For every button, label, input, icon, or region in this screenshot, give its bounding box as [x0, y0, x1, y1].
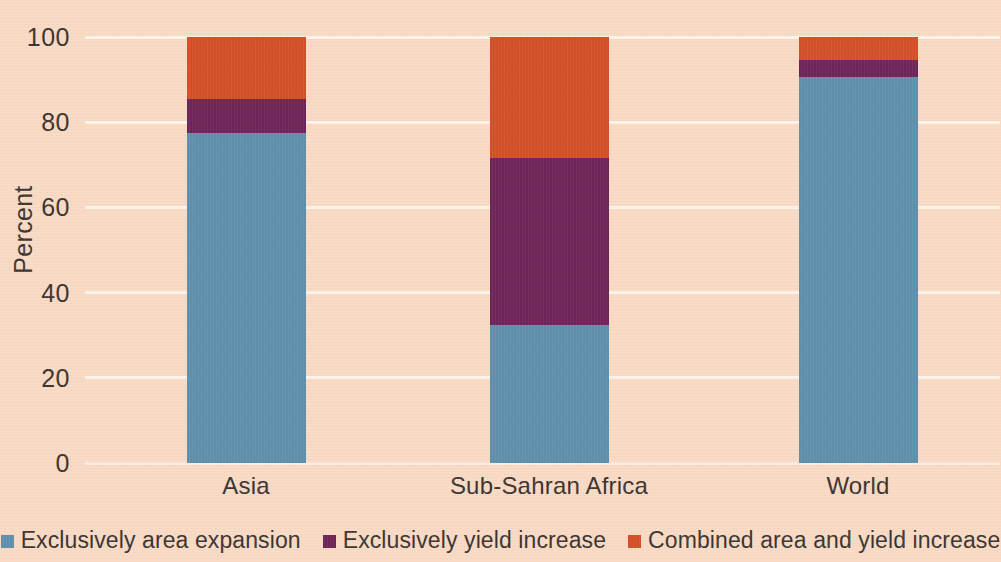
y-axis: 020406080100	[0, 37, 70, 463]
stacked-bar-chart: Percent 020406080100 AsiaSub-Sahran Afri…	[0, 0, 1001, 562]
y-tick-label-0: 0	[8, 449, 70, 478]
bar-stack	[490, 37, 609, 463]
bar-segment[interactable]	[490, 325, 609, 463]
legend-label: Exclusively yield increase	[343, 527, 606, 554]
bar-group-asia[interactable]	[187, 37, 306, 463]
legend-swatch-icon	[1, 535, 14, 548]
bar-segment[interactable]	[490, 158, 609, 325]
y-tick-label-20: 20	[8, 363, 70, 392]
bar-segment[interactable]	[187, 37, 306, 99]
bar-group-sub-sahran-africa[interactable]	[490, 37, 609, 463]
legend-label: Combined area and yield increase	[648, 527, 1000, 554]
legend-item[interactable]: Exclusively yield increase	[323, 527, 606, 554]
bar-group-world[interactable]	[799, 37, 918, 463]
legend-swatch-icon	[628, 535, 641, 548]
bar-segment[interactable]	[490, 37, 609, 158]
legend-label: Exclusively area expansion	[21, 527, 301, 554]
y-tick-label-100: 100	[8, 23, 70, 52]
y-tick-label-80: 80	[8, 108, 70, 137]
legend-swatch-icon	[323, 535, 336, 548]
bar-segment[interactable]	[187, 133, 306, 463]
legend-item[interactable]: Exclusively area expansion	[1, 527, 301, 554]
plot-area	[85, 37, 1000, 463]
bar-segment[interactable]	[799, 37, 918, 60]
bar-segment[interactable]	[799, 60, 918, 77]
x-axis: AsiaSub-Sahran AfricaWorld	[85, 472, 1000, 506]
bar-stack	[799, 37, 918, 463]
y-tick-label-40: 40	[8, 278, 70, 307]
bar-segment[interactable]	[187, 99, 306, 133]
x-tick-label-world: World	[826, 472, 889, 500]
y-tick-label-60: 60	[8, 193, 70, 222]
chart-legend: Exclusively area expansionExclusively yi…	[0, 527, 1001, 554]
x-tick-label-sub-sahran-africa: Sub-Sahran Africa	[450, 472, 648, 500]
x-tick-label-asia: Asia	[222, 472, 270, 500]
legend-item[interactable]: Combined area and yield increase	[628, 527, 1000, 554]
bar-segment[interactable]	[799, 77, 918, 463]
bar-stack	[187, 37, 306, 463]
